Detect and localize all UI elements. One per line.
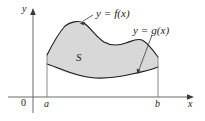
curve-label-g-of-x: y = g(x) xyxy=(133,25,169,36)
x-tick-label-b: b xyxy=(155,99,160,109)
area-between-curves-figure: y = f(x) y = g(x) S y x 0 a b xyxy=(0,0,205,121)
y-axis-label: y xyxy=(22,4,27,14)
f-label-leader-line xyxy=(83,15,94,22)
origin-label: 0 xyxy=(21,98,26,108)
x-axis-label: x xyxy=(188,99,193,109)
x-tick-label-a: a xyxy=(44,99,49,109)
y-axis-arrowhead xyxy=(30,8,36,15)
region-label-s: S xyxy=(76,52,82,63)
curve-label-f-of-x: y = f(x) xyxy=(96,8,130,19)
